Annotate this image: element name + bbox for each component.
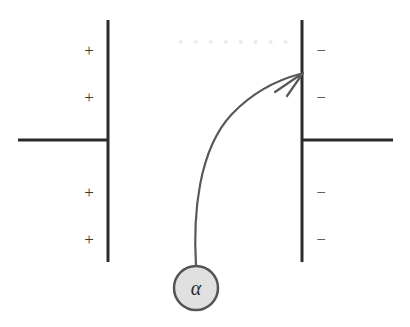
positive-charge-label-3: + — [80, 184, 98, 201]
negative-charge-label-3: − — [312, 184, 330, 201]
alpha-particle-path-group — [195, 73, 303, 266]
positive-charge-label-2: + — [80, 89, 98, 106]
negative-charge-label-2: − — [312, 89, 330, 106]
positive-charge-label-1: + — [80, 42, 98, 59]
figure-canvas: • • • • • • • • + + + + − − − − α — [0, 0, 410, 327]
negative-charge-label-1: − — [312, 42, 330, 59]
alpha-particle-label: α — [181, 278, 211, 298]
positive-charge-label-4: + — [80, 231, 98, 248]
negative-charge-label-4: − — [312, 231, 330, 248]
alpha-particle-trajectory — [195, 74, 300, 266]
